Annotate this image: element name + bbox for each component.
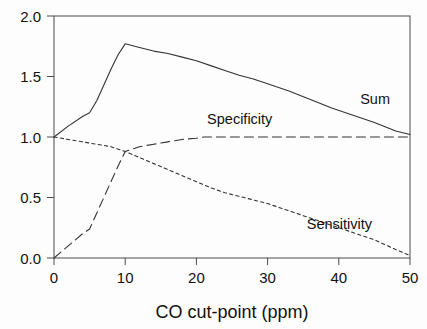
y-tick-label: 1.5 [20, 68, 41, 85]
x-tick-label: 40 [330, 269, 347, 286]
chart-figure: 0.00.51.01.52.0 01020304050 SumSpecifici… [0, 0, 427, 329]
y-tick-label: 1.0 [20, 129, 41, 146]
x-tick-label: 0 [50, 269, 58, 286]
roc-sum-line-chart: 0.00.51.01.52.0 01020304050 SumSpecifici… [0, 0, 427, 329]
y-tick-label: 0.0 [20, 250, 41, 267]
y-tick-label: 0.5 [20, 189, 41, 206]
x-tick-label: 50 [402, 269, 419, 286]
x-tick-label: 30 [259, 269, 276, 286]
y-tick-label: 2.0 [20, 8, 41, 25]
x-tick-label: 10 [117, 269, 134, 286]
series-label-sensitivity: Sensitivity [307, 216, 373, 232]
series-label-specificity: Specificity [207, 111, 273, 127]
series-label-sum: Sum [360, 91, 390, 107]
figure-background [0, 0, 427, 329]
x-tick-label: 20 [188, 269, 205, 286]
x-axis-title: CO cut-point (ppm) [155, 302, 308, 322]
